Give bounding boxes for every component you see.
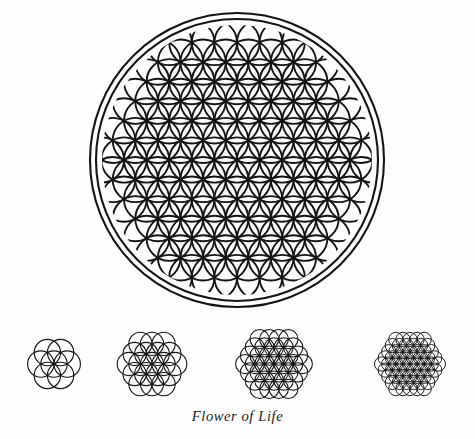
flower-of-life-37-circle-group xyxy=(236,329,313,398)
flower-of-life-mandala-svg xyxy=(0,0,475,325)
seed-of-life-svg xyxy=(4,318,104,410)
figure-flower-19 xyxy=(102,318,202,410)
figure-flower-61 xyxy=(358,318,458,410)
seed-of-life-group xyxy=(28,339,81,388)
flower-37-svg xyxy=(222,318,322,410)
progression-row xyxy=(0,318,475,410)
plate-canvas: Flower of Life xyxy=(0,0,475,439)
figure-flower-37 xyxy=(222,318,322,410)
flower-of-life-19-circle-group xyxy=(117,332,187,395)
main-figure-container xyxy=(0,0,475,325)
flower-19-svg xyxy=(102,318,202,410)
flower-61-svg xyxy=(358,318,458,410)
flower-of-life-61-circle-group xyxy=(375,332,446,395)
figure-seed-of-life xyxy=(4,318,104,410)
figure-caption: Flower of Life xyxy=(0,408,475,425)
